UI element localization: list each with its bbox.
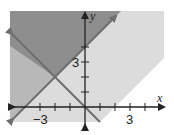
x-tick-label-neg3: −3	[33, 112, 48, 127]
y-tick-label-3: 3	[72, 55, 79, 70]
x-tick-label-3: 3	[126, 112, 133, 127]
y-axis-label: y	[89, 9, 96, 23]
x-axis-label: x	[156, 91, 163, 105]
inequality-graph: −3 3 3 x y	[0, 0, 174, 135]
